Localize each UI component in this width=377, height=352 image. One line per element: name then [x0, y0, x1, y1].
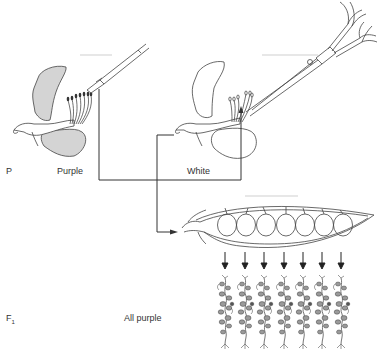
arrow-down-icon [300, 263, 306, 269]
arrow-down-icon [338, 263, 344, 269]
pea-seeds [218, 207, 353, 236]
scissors-icon [246, 2, 377, 116]
mendel-cross-diagram: P Purple White F1 All purple [0, 0, 377, 352]
purple-flower-icon [13, 66, 92, 156]
generation-label-f1: F1 [6, 313, 15, 325]
white-flower-icon [175, 61, 256, 158]
arrow-down-icon [281, 263, 287, 269]
pea-plant-icon [334, 275, 350, 349]
pea-pod-icon [182, 206, 374, 247]
arrow-down-icon [319, 263, 325, 269]
diagram-artwork [0, 0, 377, 352]
generation-label-p: P [6, 166, 12, 176]
arrow-down-icon [222, 263, 228, 269]
arrow-right-icon [170, 230, 178, 235]
pea-plant-icon [257, 275, 273, 349]
brush-icon [87, 44, 149, 93]
generation-label-f1-subscript: 1 [12, 319, 15, 325]
f1-plants [218, 275, 350, 349]
parent-label-purple: Purple [57, 166, 83, 176]
parent-label-white: White [187, 166, 210, 176]
pea-plant-icon [218, 275, 234, 349]
pea-plant-icon [296, 275, 312, 349]
pea-plant-icon [238, 275, 254, 349]
offspring-label: All purple [124, 313, 162, 323]
pea-plant-icon [315, 275, 331, 349]
arrow-down-icon [261, 263, 267, 269]
arrow-down-icon [242, 263, 248, 269]
cross-connector [99, 89, 241, 232]
seed-to-plant-arrows [222, 252, 344, 269]
pea-plant-icon [277, 275, 293, 349]
